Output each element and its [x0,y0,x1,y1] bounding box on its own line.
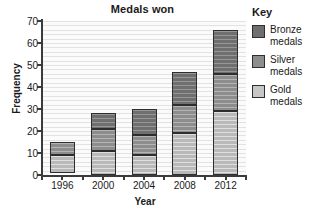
medals-won-bar-chart: Medals won Frequency Year 01020304050607… [0,0,322,213]
bar-segment-gold [213,111,238,175]
legend-item-bronze[interactable]: Bronze medals [252,24,320,47]
plot-area [42,21,246,175]
x-tick-mark [143,175,145,180]
y-tick-mark [37,130,42,132]
bar-segment-silver [132,135,157,155]
x-axis-label: Year [40,196,250,207]
x-tick-mark-boundary [41,175,43,180]
bar-segment-gold [132,155,157,175]
bar-segment-silver [50,142,75,155]
legend-label: Silver medals [270,54,302,77]
legend: Key Bronze medalsSilver medalsGold medal… [252,6,320,114]
bar-segment-silver [213,74,238,111]
bar-segment-gold [172,133,197,175]
y-tick-label: 10 [0,148,38,159]
bar-stack [172,21,197,175]
legend-label: Bronze medals [270,24,302,47]
y-tick-label: 60 [0,38,38,49]
bar-segment-gold [91,151,116,175]
y-tick-mark [37,20,42,22]
x-tick-label: 2012 [202,180,250,191]
y-tick-label: 70 [0,16,38,27]
x-tick-mark-boundary [204,175,206,180]
x-tick-mark [61,175,63,180]
bar-stack [132,21,157,175]
y-tick-label: 20 [0,126,38,137]
y-tick-mark [37,108,42,110]
legend-rows: Bronze medalsSilver medalsGold medals [252,24,320,107]
bar-segment-gold [50,155,75,173]
x-tick-mark [184,175,186,180]
x-tick-mark-boundary [245,175,247,180]
y-tick-mark [37,86,42,88]
legend-swatch-gold-icon [252,85,265,98]
legend-swatch-bronze-icon [252,25,265,38]
bar-segment-bronze [172,72,197,105]
bar-segment-bronze [132,109,157,135]
y-tick-label: 0 [0,170,38,181]
legend-label: Gold medals [270,84,302,107]
x-tick-mark [102,175,104,180]
y-tick-label: 40 [0,82,38,93]
bar-segment-silver [91,129,116,151]
bar-segment-bronze [91,113,116,128]
y-tick-mark [37,64,42,66]
legend-item-silver[interactable]: Silver medals [252,54,320,77]
y-tick-label: 50 [0,60,38,71]
bar-segment-bronze [213,30,238,74]
x-tick-mark [225,175,227,180]
bar-stack [50,21,75,175]
x-tick-mark-boundary [82,175,84,180]
bar-segment-silver [172,105,197,134]
x-tick-mark-boundary [123,175,125,180]
y-tick-mark [37,152,42,154]
bar-stack [213,21,238,175]
y-tick-label: 30 [0,104,38,115]
x-tick-mark-boundary [163,175,165,180]
legend-swatch-silver-icon [252,55,265,68]
chart-title: Medals won [40,3,245,15]
bar-stack [91,21,116,175]
legend-title: Key [252,6,320,18]
legend-item-gold[interactable]: Gold medals [252,84,320,107]
y-tick-mark [37,42,42,44]
